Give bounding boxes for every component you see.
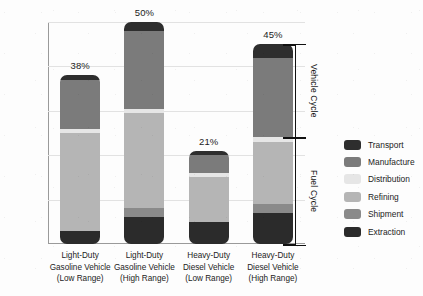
chart-legend: TransportManufactureDistributionRefining…: [344, 136, 422, 240]
bar-segment-shipment[interactable]: [253, 204, 293, 213]
legend-swatch-distribution: [344, 174, 361, 184]
x-axis-category-label: Light-DutyGasoline Vehicle(Low Range): [43, 250, 117, 285]
bar-segment-manufacture[interactable]: [189, 155, 229, 173]
x-axis-label-line: (Low Range): [172, 273, 246, 285]
bar-segment-manufacture[interactable]: [60, 80, 100, 129]
x-axis-label-line: (High Range): [107, 273, 181, 285]
legend-item[interactable]: Transport: [344, 136, 422, 153]
bar-segment-refining[interactable]: [189, 177, 229, 221]
x-axis-category-label: Heavy-DutyDiesel Vehicle(Low Range): [172, 250, 246, 285]
bar-segment-refining[interactable]: [124, 113, 164, 208]
bar-segment-transport[interactable]: [124, 22, 164, 31]
bar-segment-refining[interactable]: [60, 133, 100, 231]
legend-label: Refining: [368, 192, 399, 202]
bar-total-label: 50%: [124, 7, 164, 18]
legend-swatch-manufacture: [344, 157, 361, 167]
stacked-bar[interactable]: [124, 22, 164, 244]
bar-segment-shipment[interactable]: [124, 208, 164, 217]
bar-segment-extraction[interactable]: [124, 217, 164, 244]
x-axis-label-line: Diesel Vehicle: [172, 262, 246, 274]
x-axis-label-line: Gasoline Vehicle: [107, 262, 181, 274]
stacked-bar[interactable]: [253, 44, 293, 244]
legend-item[interactable]: Shipment: [344, 206, 422, 223]
legend-item[interactable]: Extraction: [344, 223, 422, 240]
vehicle-cycle-bracket: [295, 44, 306, 139]
bracket-arm: [283, 244, 296, 246]
x-axis-label-line: Gasoline Vehicle: [43, 262, 117, 274]
bar-column[interactable]: 45%: [253, 22, 293, 244]
bar-segment-extraction[interactable]: [253, 213, 293, 244]
legend-label: Extraction: [368, 227, 405, 237]
stacked-bar[interactable]: [189, 151, 229, 244]
bar-segment-extraction[interactable]: [60, 231, 100, 244]
bracket-arm: [283, 44, 296, 46]
x-axis-category-label: Light-DutyGasoline Vehicle(High Range): [107, 250, 181, 285]
bar-segment-transport[interactable]: [253, 44, 293, 57]
bar-segment-extraction[interactable]: [189, 222, 229, 244]
legend-swatch-shipment: [344, 209, 361, 219]
bracket-arm: [283, 137, 296, 139]
x-axis-label-line: Heavy-Duty: [172, 250, 246, 262]
y-axis-line: [48, 22, 49, 244]
x-axis-category-label: Heavy-DutyDiesel Vehicle(High Range): [236, 250, 310, 285]
bar-column[interactable]: 21%: [189, 22, 229, 244]
fuel-cycle-bracket: [295, 137, 306, 246]
legend-item[interactable]: Manufacture: [344, 153, 422, 170]
bar-column[interactable]: 50%: [124, 22, 164, 244]
cycle-label: Vehicle Cycle: [309, 44, 319, 137]
bar-segment-manufacture[interactable]: [253, 58, 293, 138]
x-axis-label-line: Light-Duty: [107, 250, 181, 262]
legend-label: Shipment: [368, 209, 403, 219]
legend-label: Transport: [368, 140, 404, 150]
cycle-label: Fuel Cycle: [309, 137, 319, 244]
legend-swatch-transport: [344, 140, 361, 150]
legend-label: Distribution: [368, 174, 410, 184]
stacked-bar[interactable]: [60, 75, 100, 244]
bar-column[interactable]: 38%: [60, 22, 100, 244]
legend-swatch-refining: [344, 192, 361, 202]
x-axis-label-line: (Low Range): [43, 273, 117, 285]
x-axis-label-line: Light-Duty: [43, 250, 117, 262]
bar-total-label: 21%: [189, 136, 229, 147]
legend-label: Manufacture: [368, 157, 415, 167]
x-axis-category-labels: Light-DutyGasoline Vehicle(Low Range)Lig…: [48, 250, 305, 294]
bar-total-label: 38%: [60, 60, 100, 71]
legend-item[interactable]: Distribution: [344, 171, 422, 188]
x-axis-label-line: (High Range): [236, 273, 310, 285]
x-axis-label-line: Diesel Vehicle: [236, 262, 310, 274]
chart-figure: 0%10%20%30%40%50% 38%50%21%45% Vehicle C…: [0, 0, 423, 296]
x-axis-label-line: Heavy-Duty: [236, 250, 310, 262]
bar-total-label: 45%: [253, 29, 293, 40]
legend-item[interactable]: Refining: [344, 188, 422, 205]
plot-area: 38%50%21%45% Vehicle CycleFuel Cycle: [48, 22, 305, 244]
bar-segment-manufacture[interactable]: [124, 31, 164, 109]
bar-segment-refining[interactable]: [253, 142, 293, 204]
legend-swatch-extraction: [344, 227, 361, 237]
